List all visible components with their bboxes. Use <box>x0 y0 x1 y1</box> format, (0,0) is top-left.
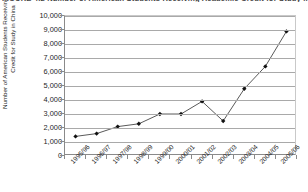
y-axis-tick-mark <box>60 43 64 44</box>
y-axis-tick-mark <box>60 113 64 114</box>
x-axis-tick-mark <box>148 155 149 159</box>
gridline <box>65 16 295 17</box>
y-axis-tick-mark <box>60 99 64 100</box>
y-axis-tick-label: 10,000 <box>39 11 62 20</box>
gridline <box>65 30 295 31</box>
series-line <box>76 31 287 136</box>
y-axis-tick-mark <box>60 71 64 72</box>
y-axis-tick-labels: 01,0002,0003,0004,0005,0006,0007,0008,00… <box>26 9 62 159</box>
y-axis-title: Number of American Students Receiving Ac… <box>1 0 23 110</box>
x-axis-tick-mark <box>127 155 128 159</box>
plot-area <box>64 15 296 155</box>
gridline <box>65 44 295 45</box>
gridline <box>65 72 295 73</box>
gridline <box>65 100 295 101</box>
y-axis-tick-mark <box>60 127 64 128</box>
x-axis-tick-mark <box>275 155 276 159</box>
y-axis-tick-mark <box>60 29 64 30</box>
x-axis-tick-mark <box>212 155 213 159</box>
y-axis-tick-mark <box>60 85 64 86</box>
x-axis-tick-mark <box>254 155 255 159</box>
x-axis-tick-mark <box>296 155 297 159</box>
gridline <box>65 86 295 87</box>
data-point-marker <box>73 134 77 138</box>
x-axis-tick-mark <box>106 155 107 159</box>
x-axis-tick-labels: 1995/961996/971997/981998/991999/002000/… <box>0 158 308 192</box>
x-axis-tick-mark <box>233 155 234 159</box>
gridline <box>65 142 295 143</box>
gridline <box>65 114 295 115</box>
data-point-marker <box>137 122 141 126</box>
y-axis-tick-mark <box>60 141 64 142</box>
gridline <box>65 58 295 59</box>
figure-container: FIGURE 4.2 Number of American Students R… <box>0 0 308 192</box>
y-axis-tick-mark <box>60 57 64 58</box>
data-point-marker <box>94 131 98 135</box>
x-axis-tick-mark <box>169 155 170 159</box>
gridline <box>65 128 295 129</box>
y-axis-tick-mark <box>60 15 64 16</box>
figure-caption: FIGURE 4.2 Number of American Students R… <box>2 0 308 2</box>
x-axis-tick-mark <box>85 155 86 159</box>
x-axis-tick-mark <box>64 155 65 159</box>
x-axis-tick-mark <box>191 155 192 159</box>
